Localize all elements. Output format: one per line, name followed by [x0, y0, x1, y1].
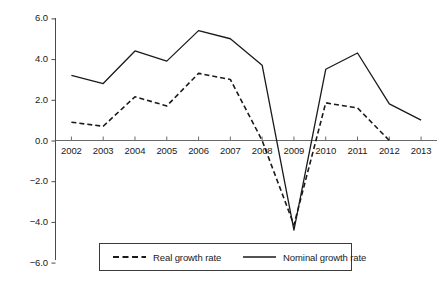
series-line-nominal-growth-rate — [71, 31, 421, 230]
x-tick-label-2004: 2004 — [118, 145, 152, 156]
legend-dashed-line-icon — [113, 252, 146, 262]
y-tick-label: −6.0 — [16, 257, 48, 268]
legend-item-real-growth-rate: Real growth rate — [113, 252, 221, 263]
x-tick-label-2002: 2002 — [54, 145, 88, 156]
x-tick-label-2010: 2010 — [309, 145, 343, 156]
line-chart: 6.04.02.00.0−2.0−4.0−6.0 200220032004200… — [0, 0, 443, 286]
y-axis-ticks — [52, 19, 56, 263]
x-tick-label-2008: 2008 — [245, 145, 279, 156]
x-tick-label-2013: 2013 — [404, 145, 438, 156]
y-tick-label: 0.0 — [16, 135, 48, 146]
y-tick-label: 2.0 — [16, 94, 48, 105]
legend-label-nominal-growth-rate: Nominal growth rate — [283, 252, 366, 263]
x-tick-label-2005: 2005 — [150, 145, 184, 156]
x-tick-label-2009: 2009 — [277, 145, 311, 156]
y-tick-label: −4.0 — [16, 216, 48, 227]
chart-legend: Real growth rate Nominal growth rate — [99, 243, 352, 271]
legend-label-real-growth-rate: Real growth rate — [153, 252, 221, 263]
legend-item-nominal-growth-rate: Nominal growth rate — [243, 252, 366, 263]
x-tick-label-2007: 2007 — [213, 145, 247, 156]
y-tick-label: −2.0 — [16, 175, 48, 186]
x-tick-label-2011: 2011 — [341, 145, 375, 156]
x-tick-label-2012: 2012 — [372, 145, 406, 156]
y-tick-label: 6.0 — [16, 12, 48, 23]
x-tick-label-2006: 2006 — [182, 145, 216, 156]
data-series-layer — [71, 31, 421, 230]
x-tick-label-2003: 2003 — [86, 145, 120, 156]
x-axis-ticks — [71, 137, 421, 141]
y-tick-label: 4.0 — [16, 53, 48, 64]
legend-solid-line-icon — [243, 252, 276, 262]
